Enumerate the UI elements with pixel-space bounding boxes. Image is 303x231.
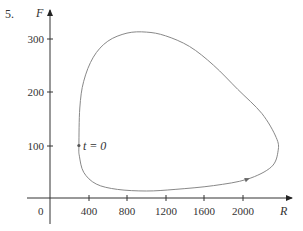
- direction-arrow-icon: [244, 178, 249, 182]
- start-point: [77, 144, 80, 147]
- x-tick-label: 1600: [193, 205, 216, 217]
- x-tick-label: 800: [119, 205, 136, 217]
- y-axis-title: F: [35, 6, 44, 20]
- t0-annotation: t = 0: [83, 139, 106, 153]
- x-tick-label: 1200: [155, 205, 178, 217]
- x-tick-label: 2000: [232, 205, 255, 217]
- trajectory-curve: [79, 32, 279, 191]
- y-tick-label: 200: [28, 86, 45, 98]
- x-tick-label: 400: [81, 205, 98, 217]
- problem-number: 5.: [5, 7, 14, 21]
- y-tick-label: 100: [28, 140, 45, 152]
- phase-plot: 5. F R 0 400 800 1200 1600 2000 100 200 …: [0, 0, 303, 231]
- x-axis-title: R: [279, 204, 288, 218]
- y-ticks: 100 200 300: [28, 33, 54, 152]
- y-tick-label: 300: [28, 33, 45, 45]
- origin-label: 0: [38, 205, 44, 217]
